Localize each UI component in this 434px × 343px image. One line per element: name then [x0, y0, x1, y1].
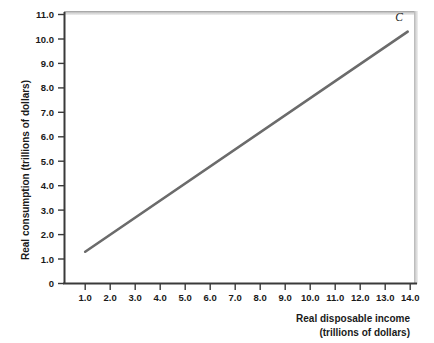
plot-frame-top — [64, 11, 418, 15]
x-tick-label-7: 7.0 — [229, 292, 242, 303]
x-tick-label-11: 11.0 — [326, 292, 344, 303]
y-tick-label-1: 1.0 — [41, 254, 54, 265]
plot-frame-right — [414, 11, 418, 284]
x-tick-label-14: 14.0 — [401, 292, 420, 303]
y-axis-ticks — [58, 15, 64, 284]
x-tick-label-13: 13.0 — [376, 292, 395, 303]
x-axis-ticks — [85, 284, 410, 290]
y-tick-label-5: 5.0 — [41, 156, 54, 167]
x-tick-label-2: 2.0 — [104, 292, 117, 303]
x-tick-label-9: 9.0 — [279, 292, 292, 303]
x-tick-label-4: 4.0 — [154, 292, 167, 303]
y-tick-label-11: 11.0 — [36, 9, 54, 20]
y-tick-label-10: 10.0 — [36, 34, 55, 45]
plot-area-background — [64, 14, 417, 283]
x-axis-tick-labels: 1.0 2.0 3.0 4.0 5.0 6.0 7.0 8.0 9.0 10.0… — [79, 292, 420, 303]
x-tick-label-6: 6.0 — [204, 292, 217, 303]
x-axis-title-line1: Real disposable income — [296, 313, 410, 324]
y-tick-label-6: 6.0 — [41, 131, 54, 142]
y-tick-label-3: 3.0 — [41, 205, 54, 216]
y-tick-label-9: 9.0 — [41, 58, 54, 69]
x-tick-label-8: 8.0 — [254, 292, 267, 303]
y-tick-label-8: 8.0 — [41, 82, 54, 93]
y-axis-tick-labels: 11.0 10.0 9.0 8.0 7.0 6.0 5.0 4.0 3.0 2.… — [36, 9, 55, 289]
x-tick-label-1: 1.0 — [79, 292, 92, 303]
curve-label-c: C — [395, 11, 403, 23]
x-tick-label-5: 5.0 — [179, 292, 192, 303]
x-tick-label-12: 12.0 — [351, 292, 370, 303]
y-axis-title: Real consumption (trillions of dollars) — [20, 80, 31, 260]
y-tick-label-7: 7.0 — [41, 107, 54, 118]
y-tick-label-0: 0 — [49, 278, 54, 289]
x-axis-title-line2: (trillions of dollars) — [319, 327, 410, 338]
x-tick-label-10: 10.0 — [301, 292, 320, 303]
y-tick-label-2: 2.0 — [41, 229, 54, 240]
x-tick-label-3: 3.0 — [129, 292, 142, 303]
chart-canvas: 11.0 10.0 9.0 8.0 7.0 6.0 5.0 4.0 3.0 2.… — [0, 0, 434, 343]
y-tick-label-4: 4.0 — [41, 180, 54, 191]
consumption-function-chart: 11.0 10.0 9.0 8.0 7.0 6.0 5.0 4.0 3.0 2.… — [0, 0, 434, 343]
